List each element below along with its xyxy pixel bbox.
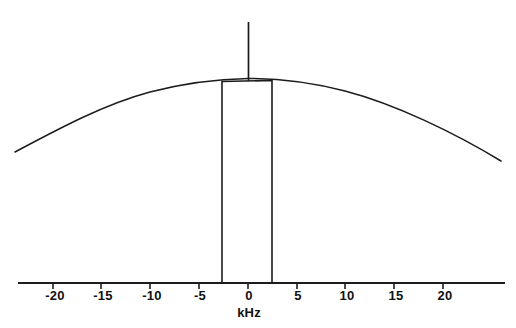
- axis-tick-label-0: 0: [245, 288, 252, 303]
- axis-tick-label-20: 20: [438, 288, 453, 303]
- axis-tick-label-5: 5: [294, 288, 301, 303]
- axis-tick-label--10: -10: [142, 288, 161, 303]
- axis-tick-label-10: 10: [340, 288, 355, 303]
- spectrum-figure: -20 -15 -10 -5 0 5 10 15 20 kHz: [0, 0, 516, 328]
- axis-tick-label--5: -5: [194, 288, 206, 303]
- axis-tick-label--20: -20: [45, 288, 64, 303]
- broad-component-curve: [15, 79, 501, 162]
- narrow-rectangular-component: [222, 81, 272, 284]
- axis-title-khz: kHz: [237, 305, 261, 320]
- axis-tick-label-15: 15: [389, 288, 404, 303]
- axis-tick-label--15: -15: [93, 288, 112, 303]
- spectrum-plot: [0, 0, 516, 328]
